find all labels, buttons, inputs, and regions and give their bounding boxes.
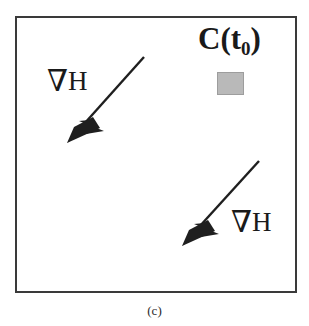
gradient-label-2: ∇H	[231, 206, 271, 236]
region-label-subscript: 0	[241, 38, 251, 59]
nabla-icon: ∇	[231, 207, 252, 237]
gradient-label-1-field: H	[68, 66, 88, 96]
figure-container: C(t0) ∇H ∇H (c)	[0, 0, 309, 326]
figure-caption: (c)	[0, 303, 309, 319]
region-label-main: C(t	[198, 21, 241, 56]
gradient-label-2-field: H	[252, 207, 272, 237]
nabla-icon: ∇	[47, 66, 68, 96]
gradient-label-1: ∇H	[47, 65, 87, 95]
region-label-close-paren: )	[251, 21, 261, 56]
region-swatch	[217, 72, 244, 95]
region-label-c-t0: C(t0)	[198, 23, 261, 58]
